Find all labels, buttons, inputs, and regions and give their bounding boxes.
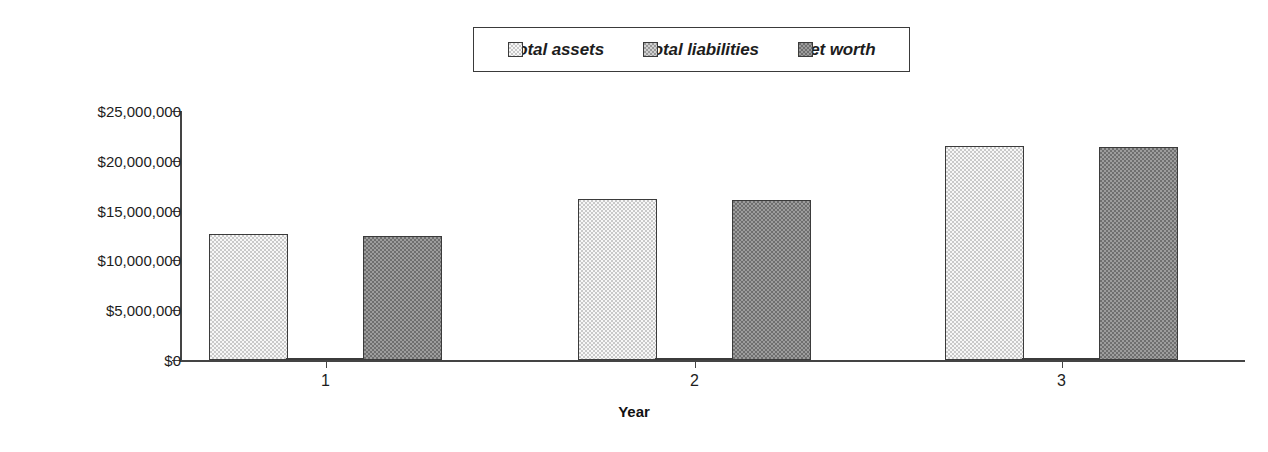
y-axis-tick-label: $20,000,000 — [63, 152, 181, 169]
y-axis-tick-label: $25,000,000 — [63, 103, 181, 120]
bar-net-worth-year-1[interactable] — [363, 236, 442, 360]
y-axis-line — [180, 111, 182, 361]
bar-net-worth-year-3[interactable] — [1099, 147, 1178, 360]
chart-canvas: Total assets Total liabilities Net worth… — [0, 0, 1268, 452]
bar-total-liabilities-year-1[interactable] — [286, 358, 365, 360]
bar-total-assets-year-2[interactable] — [578, 199, 657, 360]
bar-total-assets-year-3[interactable] — [945, 146, 1024, 360]
bar-net-worth-year-2[interactable] — [732, 200, 811, 360]
bar-total-liabilities-year-3[interactable] — [1022, 358, 1101, 360]
x-axis-label-year-3: 3 — [1032, 372, 1092, 390]
bar-total-assets-year-1[interactable] — [209, 234, 288, 360]
x-axis-tick-mark — [1062, 362, 1063, 368]
y-axis-tick-label: $0 — [63, 352, 181, 369]
x-axis-line — [180, 360, 1245, 362]
x-axis-tick-mark — [695, 362, 696, 368]
bar-total-liabilities-year-2[interactable] — [655, 358, 734, 360]
x-axis-label-year-1: 1 — [296, 372, 356, 390]
y-axis-tick-label: $5,000,000 — [63, 302, 181, 319]
x-axis-title: Year — [0, 403, 1268, 420]
x-axis-label-year-2: 2 — [665, 372, 725, 390]
plot-area: $0$5,000,000$10,000,000$15,000,000$20,00… — [0, 0, 1268, 452]
y-axis-tick-label: $15,000,000 — [63, 202, 181, 219]
y-axis-tick-label: $10,000,000 — [63, 252, 181, 269]
x-axis-tick-mark — [326, 362, 327, 368]
